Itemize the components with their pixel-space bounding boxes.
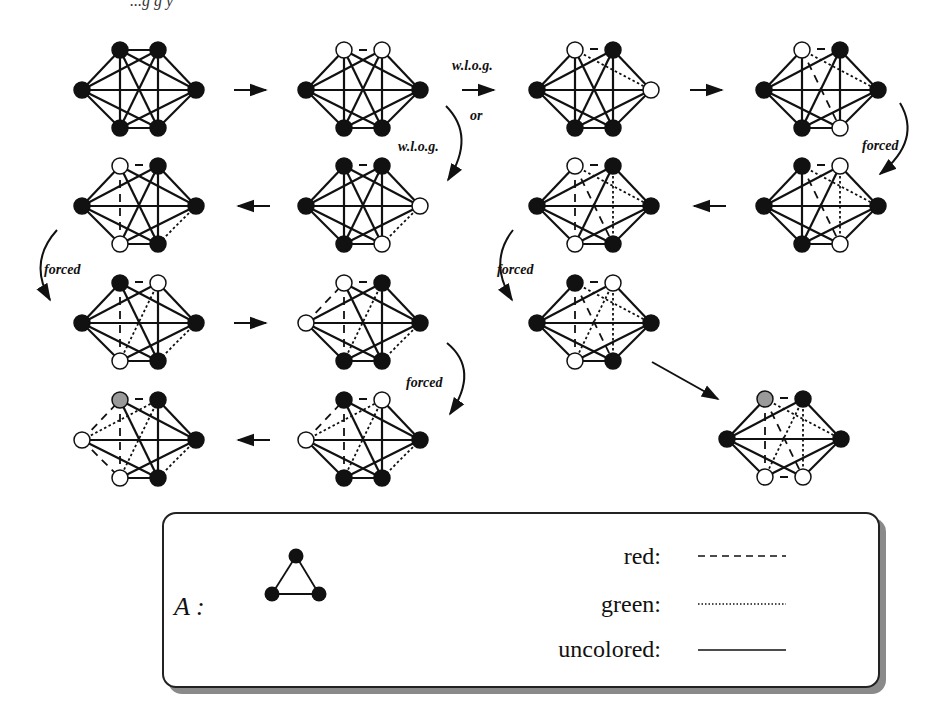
vertex-g11-l <box>529 315 545 331</box>
vertex-g3-br <box>605 120 621 136</box>
vertex-g5-l <box>74 198 90 214</box>
vertex-g11-bl <box>567 353 583 369</box>
vertex-g7-tr <box>605 158 621 174</box>
or-label: or <box>470 108 483 123</box>
vertex-g11-tl <box>567 275 583 291</box>
graph-2 <box>306 50 420 128</box>
legend-red-label: red: <box>624 543 661 569</box>
vertex-g13-br <box>374 470 390 486</box>
vertex-g5-br <box>150 236 166 252</box>
vertex-g6-br <box>374 236 390 252</box>
vertex-g10-tl <box>336 275 352 291</box>
vertex-g2-l <box>298 82 314 98</box>
vertex-g4-r <box>870 82 886 98</box>
legend-uncolored-label: uncolored: <box>558 636 661 662</box>
vertex-g5-r <box>188 198 204 214</box>
vertex-g14-r <box>833 431 849 447</box>
vertex-g2-bl <box>336 120 352 136</box>
vertex-g7-tl <box>567 158 583 174</box>
curved-arrow-icon <box>446 106 462 180</box>
transition-arrows <box>41 90 908 440</box>
vertex-g1-bl <box>112 120 128 136</box>
vertex-g4-tr <box>832 42 848 58</box>
vertex-g1-r <box>188 82 204 98</box>
vertex-g7-r <box>643 198 659 214</box>
vertex-g8-r <box>870 198 886 214</box>
vertex-g10-bl <box>336 353 352 369</box>
graph-a-label: A : <box>172 592 205 621</box>
vertex-g9-r <box>188 315 204 331</box>
vertex-g1-tr <box>150 42 166 58</box>
vertex-g13-tr <box>374 392 390 408</box>
vertex-g10-r <box>412 315 428 331</box>
wlog-label: w.l.o.g. <box>452 58 493 73</box>
vertex-g11-tr <box>605 275 621 291</box>
vertex-g14-l <box>719 431 735 447</box>
vertex-g14-tl <box>757 391 773 407</box>
vertex-g12-tl <box>112 392 128 408</box>
legend-green-label: green: <box>601 591 661 617</box>
vertex-g6-bl <box>336 236 352 252</box>
forced-label: forced <box>44 262 82 277</box>
truncated-caption-fragment: ...g g y <box>130 0 174 10</box>
vertex-g6-tl <box>336 158 352 174</box>
vertex-g9-l <box>74 315 90 331</box>
vertex-g9-bl <box>112 353 128 369</box>
vertex-g3-bl <box>567 120 583 136</box>
graph-12 <box>82 399 196 478</box>
vertex-g4-bl <box>794 120 810 136</box>
vertex-g6-l <box>298 198 314 214</box>
vertex-g13-tl <box>336 392 352 408</box>
graph-7 <box>537 165 651 244</box>
graph-1 <box>82 50 196 128</box>
vertex-g14-tr <box>795 391 811 407</box>
graph-9 <box>82 282 196 361</box>
vertex-g10-l <box>298 315 314 331</box>
vertex-g10-tr <box>374 275 390 291</box>
vertex-g5-tl <box>112 158 128 174</box>
graph-3 <box>537 49 651 128</box>
vertex-g1-l <box>74 82 90 98</box>
wlog-label: w.l.o.g. <box>398 139 439 154</box>
vertex-g14-bl <box>757 469 773 485</box>
vertex-g5-bl <box>112 236 128 252</box>
vertex-g3-r <box>643 82 659 98</box>
vertex-g7-bl <box>567 236 583 252</box>
vertex-g6-tr <box>374 158 390 174</box>
vertex-g13-bl <box>336 470 352 486</box>
vertex-g8-br <box>832 236 848 252</box>
vertex-g11-br <box>605 353 621 369</box>
vertex-g9-br <box>150 353 166 369</box>
vertex-g7-l <box>529 198 545 214</box>
vertex-g7-br <box>605 236 621 252</box>
curved-arrow-icon <box>447 343 464 414</box>
vertex-g1-tl <box>112 42 128 58</box>
vertex-g8-bl <box>794 236 810 252</box>
vertex-g8-l <box>756 198 772 214</box>
vertex-g9-tr <box>150 275 166 291</box>
triangle-graph-a <box>265 549 327 602</box>
vertex-g12-bl <box>112 470 128 486</box>
vertex-g2-tl <box>336 42 352 58</box>
vertex-g4-tl <box>794 42 810 58</box>
vertex-g2-br <box>374 120 390 136</box>
vertex-g9-tl <box>112 275 128 291</box>
graph-8 <box>764 165 878 244</box>
vertex-g5-tr <box>150 158 166 174</box>
vertex-g3-tr <box>605 42 621 58</box>
legend-content: A : red: green: uncolored: <box>164 514 878 686</box>
vertex-g4-br <box>832 120 848 136</box>
graph-4 <box>764 49 878 128</box>
vertex-g10-br <box>374 353 390 369</box>
vertex-g12-tr <box>150 392 166 408</box>
vertex-g3-tl <box>567 42 583 58</box>
vertex-g12-r <box>188 432 204 448</box>
graph-5 <box>82 165 196 244</box>
graph-11 <box>537 282 651 361</box>
arrow-diagonal-icon <box>652 362 718 399</box>
forced-label: forced <box>406 375 444 390</box>
vertex-g1-br <box>150 120 166 136</box>
forced-label: forced <box>497 262 535 277</box>
vertex-g4-l <box>756 82 772 98</box>
vertex-g14-br <box>795 469 811 485</box>
